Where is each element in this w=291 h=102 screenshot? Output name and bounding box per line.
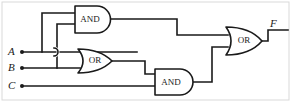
- circuit-canvas: AND OR AND OR A B C F: [0, 0, 291, 102]
- wire-and-top-out: [111, 19, 228, 35]
- or-gate-output[interactable]: OR: [226, 27, 262, 55]
- and-gate-bottom-label: AND: [161, 77, 181, 87]
- wire-or-mid-out: [112, 61, 157, 74]
- logic-circuit-figure: AND OR AND OR A B C F: [0, 0, 291, 102]
- wire-output-f: [262, 30, 288, 41]
- wire-b-branch-up-to-and: [57, 24, 77, 68]
- output-terminal: F: [269, 17, 277, 29]
- output-label-f: F: [269, 17, 277, 29]
- wire-a-branch-up-to-and: [42, 13, 77, 52]
- and-gate-top[interactable]: AND: [75, 6, 111, 33]
- input-dot-b: [20, 66, 24, 70]
- or-gate-output-label: OR: [238, 35, 251, 45]
- input-label-a: A: [7, 45, 15, 57]
- wire-and-bot-out: [193, 47, 228, 82]
- input-label-c: C: [8, 79, 16, 91]
- input-terminals: A B C: [7, 45, 24, 91]
- input-dot-c: [20, 84, 24, 88]
- and-gate-top-label: AND: [80, 14, 100, 24]
- input-label-b: B: [8, 61, 15, 73]
- and-gate-bottom[interactable]: AND: [155, 69, 193, 95]
- or-gate-middle-label: OR: [89, 55, 102, 65]
- input-dot-a: [20, 50, 24, 54]
